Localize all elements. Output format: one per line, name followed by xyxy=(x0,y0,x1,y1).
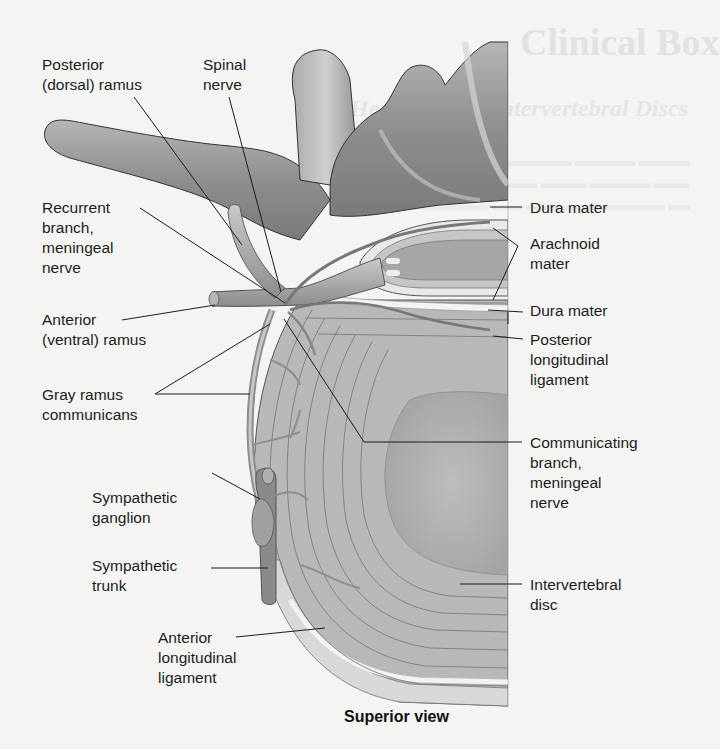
label-anterior-longitudinal-ligament: Anterior longitudinal ligament xyxy=(158,628,236,688)
label-sympathetic-trunk: Sympathetic trunk xyxy=(92,556,177,596)
label-posterior-longitudinal-ligament: Posterior longitudinal ligament xyxy=(530,330,608,390)
label-dura-mater-top: Dura mater xyxy=(530,198,608,218)
label-dura-mater-bottom: Dura mater xyxy=(530,301,608,321)
label-posterior-ramus: Posterior (dorsal) ramus xyxy=(42,55,142,95)
label-gray-ramus: Gray ramus communicans xyxy=(42,385,138,425)
label-recurrent-branch: Recurrent branch, meningeal nerve xyxy=(42,198,114,278)
label-spinal-nerve: Spinal nerve xyxy=(203,55,246,95)
label-communicating-branch: Communicating branch, meningeal nerve xyxy=(530,433,638,513)
label-arachnoid-mater: Arachnoid mater xyxy=(530,234,600,274)
label-anterior-ramus: Anterior (ventral) ramus xyxy=(42,310,146,350)
view-caption: Superior view xyxy=(344,708,449,726)
label-sympathetic-ganglion: Sympathetic ganglion xyxy=(92,488,177,528)
label-intervertebral-disc: Intervertebral disc xyxy=(530,575,621,615)
